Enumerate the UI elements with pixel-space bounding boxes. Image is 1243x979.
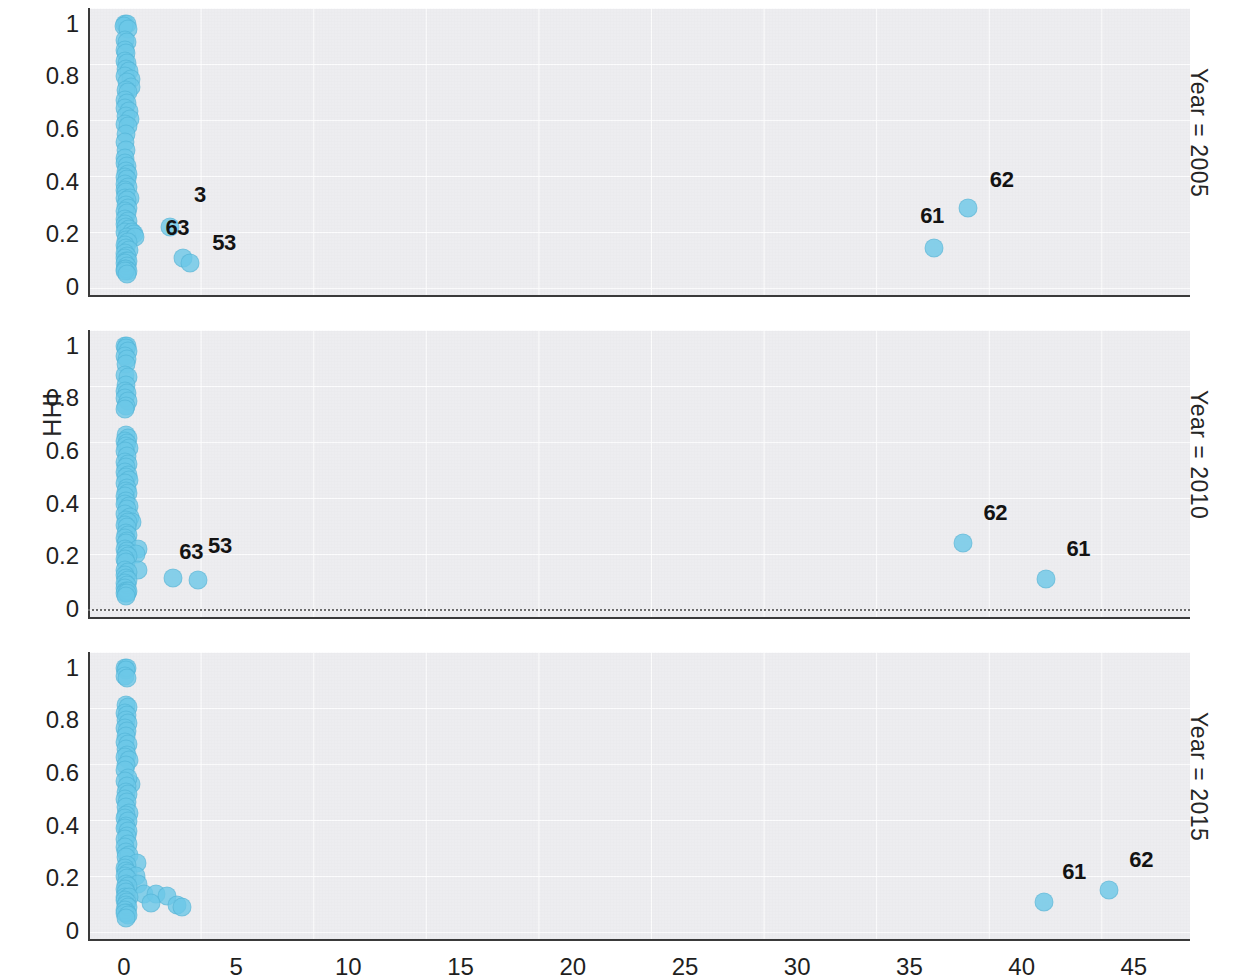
facet-strip-label: Year = 2015: [1185, 712, 1212, 841]
data-point: [164, 568, 183, 587]
y-axis-tick-label: 0.2: [46, 220, 79, 248]
plot-background: [88, 330, 1190, 617]
y-axis-tick-label: 0.2: [46, 542, 79, 570]
data-point: [116, 399, 135, 418]
data-point-label: 63: [179, 539, 203, 565]
plot-background: [88, 652, 1190, 939]
plot-background: [88, 8, 1190, 295]
y-axis-tick-label: 0: [66, 273, 79, 301]
data-point: [141, 894, 160, 913]
x-axis-tick-label: 25: [672, 953, 699, 979]
x-axis-tick-labels: 051015202530354045: [88, 945, 1190, 979]
x-axis-tick-label: 10: [335, 953, 362, 979]
y-axis-tick-label: 1: [66, 332, 79, 360]
x-axis-tick-label: 35: [896, 953, 923, 979]
data-point-label: 62: [1129, 847, 1153, 873]
x-axis-line: [88, 617, 1190, 619]
facet-strip-label: Year = 2005: [1185, 68, 1212, 197]
data-point-label: 61: [920, 203, 944, 229]
y-axis-tick-label: 1: [66, 10, 79, 38]
zero-reference-line: [88, 609, 1190, 611]
y-axis-tick-label: 0.8: [46, 62, 79, 90]
data-point: [188, 571, 207, 590]
data-point-label: 53: [212, 230, 236, 256]
y-axis-tick-label: 0.6: [46, 115, 79, 143]
y-axis-tick-label: 0: [66, 595, 79, 623]
facet-panel: 00.20.40.60.8163536261Year = 2010: [88, 330, 1190, 617]
data-point-label: 61: [1066, 536, 1090, 562]
x-axis-tick-label: 40: [1008, 953, 1035, 979]
facet-panel: 00.20.40.60.816162Year = 2015: [88, 652, 1190, 939]
data-point: [116, 908, 135, 927]
y-axis-line: [88, 8, 90, 295]
facet-panel: 00.20.40.60.81363536162Year = 2005: [88, 8, 1190, 295]
x-axis-tick-label: 0: [117, 953, 130, 979]
y-axis-tick-label: 0.8: [46, 384, 79, 412]
y-axis-tick-label: 0.2: [46, 864, 79, 892]
y-axis-line: [88, 330, 90, 617]
y-axis-tick-label: 0.8: [46, 706, 79, 734]
y-axis-tick-label: 0.4: [46, 168, 79, 196]
data-point: [925, 238, 944, 257]
data-point-label: 62: [983, 500, 1007, 526]
y-axis-tick-label: 0.4: [46, 812, 79, 840]
data-point-label: 3: [194, 182, 206, 208]
y-axis-tick-label: 0.6: [46, 437, 79, 465]
x-axis-tick-label: 45: [1121, 953, 1148, 979]
data-point: [1035, 893, 1054, 912]
data-point: [116, 586, 135, 605]
facet-strip-label: Year = 2010: [1185, 390, 1212, 519]
data-point: [1037, 569, 1056, 588]
data-point-label: 62: [990, 167, 1014, 193]
x-axis-tick-label: 20: [559, 953, 586, 979]
y-axis-tick-label: 0: [66, 917, 79, 945]
x-axis-tick-label: 15: [447, 953, 474, 979]
data-point: [117, 669, 136, 688]
y-axis-line: [88, 652, 90, 939]
y-axis-tick-label: 0.4: [46, 490, 79, 518]
data-point-label: 53: [208, 533, 232, 559]
data-point: [181, 254, 200, 273]
data-point-label: 61: [1062, 859, 1086, 885]
x-axis-line: [88, 295, 1190, 297]
data-point: [954, 534, 973, 553]
data-point-label: 63: [165, 215, 189, 241]
x-axis-line: [88, 939, 1190, 941]
x-axis-tick-label: 5: [229, 953, 242, 979]
y-axis-tick-label: 0.6: [46, 759, 79, 787]
data-point: [117, 264, 136, 283]
data-point: [1100, 881, 1119, 900]
y-axis-tick-label: 1: [66, 654, 79, 682]
data-point: [173, 898, 192, 917]
data-point: [958, 199, 977, 218]
x-axis-tick-label: 30: [784, 953, 811, 979]
